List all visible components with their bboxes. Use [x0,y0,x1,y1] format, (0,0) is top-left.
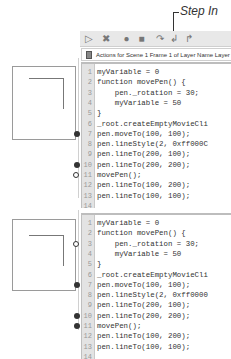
script-icon [86,51,92,59]
continue-button[interactable]: ▷ [83,33,94,44]
debugger-toolbar: ▷ ✖ ● ■ ↷ ↲ ↱ [80,31,231,47]
step-out-button[interactable]: ↱ [183,33,194,44]
drawn-line-horizontal [29,78,63,79]
step-in-callout-label: Step In [180,4,218,18]
actions-header-title: Actions for Scene 1 Frame 1 of Layer Nam… [96,50,231,60]
step-in-icon: ↲ [170,33,178,44]
drawn-line-vertical [63,78,64,109]
drawn-line-horizontal [29,235,63,236]
code-editor-bottom[interactable]: 1myVariable = 02function movePen() {3 pe… [81,213,231,359]
stop-debugging-button[interactable]: ✖ [100,33,111,44]
actions-header: Actions for Scene 1 Frame 1 of Layer Nam… [81,48,231,61]
stage-preview-top [12,66,76,140]
play-icon: ▷ [85,33,93,44]
step-in-button[interactable]: ↲ [168,33,179,44]
remove-breakpoints-icon: ■ [138,33,144,44]
code-editor-top[interactable]: 1myVariable = 02function movePen() {3 pe… [81,62,231,208]
stage-preview-bottom [12,219,76,291]
toggle-breakpoint-button[interactable]: ● [121,33,132,44]
line-number: 14 [76,351,92,359]
callout-leader-vertical [173,12,174,32]
close-x-icon: ✖ [102,33,110,44]
step-over-icon: ↷ [156,33,164,44]
code-line[interactable]: 14 [82,351,231,359]
breakpoint-circle-icon: ● [123,33,129,44]
code-line[interactable]: 14 [82,200,231,212]
remove-all-breakpoints-button[interactable]: ■ [136,33,147,44]
drawn-line-vertical [63,235,64,266]
step-over-button[interactable]: ↷ [154,33,165,44]
step-out-icon: ↱ [185,33,193,44]
